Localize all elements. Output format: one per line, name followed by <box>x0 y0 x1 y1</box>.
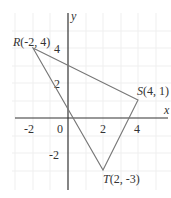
x-tick-2: 2 <box>100 122 106 136</box>
origin-label: 0 <box>57 122 63 136</box>
y-axis-label: y <box>70 9 77 23</box>
x-tick-neg2: -2 <box>24 122 34 136</box>
y-tick-4: 4 <box>54 42 60 56</box>
x-axis-label: x <box>163 103 170 117</box>
point-r-label: R(-2, 4) <box>12 35 50 49</box>
y-tick-neg2: -2 <box>49 148 59 162</box>
x-tick-4: 4 <box>134 122 140 136</box>
coordinate-plane: y x -2 0 2 4 4 2 -2 R(-2, 4) S(4, 1) T(2… <box>0 0 171 198</box>
point-t-label: T(2, -3) <box>103 172 140 186</box>
point-s-label: S(4, 1) <box>137 84 169 98</box>
